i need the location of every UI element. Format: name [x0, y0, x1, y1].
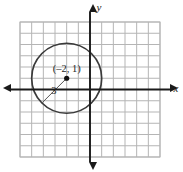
y-axis-label: y	[96, 1, 102, 13]
radius-length-label: 3	[51, 85, 56, 96]
coordinate-plane-svg: y x (–2, 1) 3	[0, 0, 183, 172]
x-axis-left-arrow-icon	[3, 84, 11, 92]
center-coordinate-label: (–2, 1)	[53, 63, 81, 75]
coordinate-plane-figure: y x (–2, 1) 3	[0, 0, 183, 172]
circle-center-point	[64, 76, 69, 81]
x-axis-label: x	[173, 82, 179, 94]
y-axis-down-arrow-icon	[89, 162, 97, 170]
